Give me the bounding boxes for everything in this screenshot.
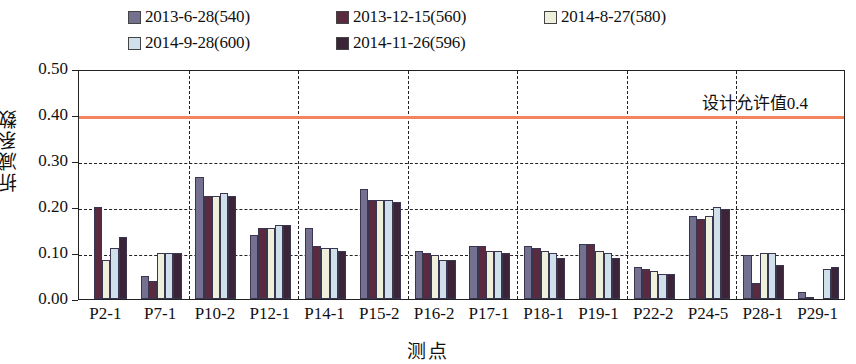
bar [195,177,203,299]
bar [798,292,806,299]
x-tick-label: P19-1 [571,304,626,324]
legend-label: 2014-11-26(596) [353,30,466,56]
x-tick-label: P7-1 [133,304,188,324]
y-tick-label: 0.50 [16,59,68,79]
legend-swatch-icon [128,11,141,24]
bar [557,258,565,299]
x-tick-label: P22-2 [626,304,681,324]
bar [384,200,392,299]
bar [642,269,650,299]
bar [204,196,212,300]
bar [393,202,401,299]
bar [713,207,721,299]
bar [743,255,751,299]
legend-swatch-icon [336,37,349,50]
legend-swatch-icon [336,11,349,24]
bar [305,228,313,299]
bar [612,258,620,299]
x-tick-label: P2-1 [78,304,133,324]
bar [587,244,595,299]
bar [212,196,220,300]
bar [532,248,540,299]
y-tick-label: 0.40 [16,105,68,125]
bar [313,246,321,299]
bar [220,193,228,299]
bar [102,260,110,299]
x-tick-label: P18-1 [516,304,571,324]
bar [768,253,776,299]
x-axis-label: 测点 [0,336,856,363]
bar [658,274,666,299]
bar [157,253,165,299]
legend-item-3: 2014-8-27(580) [544,4,752,30]
legend-item-2: 2013-12-15(560) [336,4,544,30]
bar-chart: 2013-6-28(540)2013-12-15(560)2014-8-27(5… [0,0,856,364]
legend-item-4: 2014-9-28(600) [128,30,336,56]
bar [267,228,275,299]
bar [110,248,118,299]
bar [423,253,431,299]
legend-label: 2014-9-28(600) [145,30,250,56]
bar [486,251,494,299]
legend-label: 2013-6-28(540) [145,4,250,30]
bar [368,200,376,299]
bar [806,297,814,299]
bar [831,267,839,299]
bar [494,251,502,299]
y-tick-mark [72,300,78,301]
bar [250,235,258,299]
bar [439,260,447,299]
legend-label: 2014-8-27(580) [561,4,666,30]
x-tick-label: P17-1 [462,304,517,324]
legend-swatch-icon [128,37,141,50]
threshold-label: 设计允许值0.4 [702,89,808,114]
legend-swatch-icon [544,11,557,24]
bar [667,274,675,299]
bar [330,248,338,299]
bar [165,253,173,299]
bar [415,251,423,299]
y-tick-label: 0.30 [16,151,68,171]
bar [321,248,329,299]
x-tick-label: P15-2 [352,304,407,324]
bar [502,253,510,299]
bar [595,251,603,299]
bar [760,253,768,299]
x-tick-label: P14-1 [297,304,352,324]
x-tick-label: P29-1 [790,304,845,324]
bar [689,216,697,299]
legend-item-5: 2014-11-26(596) [336,30,544,56]
y-tick-label: 0.00 [16,289,68,309]
bar [604,253,612,299]
bar [228,196,236,300]
bar [94,207,102,299]
bar [447,260,455,299]
y-tick-label: 0.10 [16,243,68,263]
bar [634,267,642,299]
bar [338,251,346,299]
bar [141,276,149,299]
x-tick-label: P24-5 [681,304,736,324]
bar [721,209,729,299]
bar [173,253,181,299]
bar [149,281,157,299]
legend-item-1: 2013-6-28(540) [128,4,336,30]
plot-area: 设计允许值0.4 [78,70,845,300]
bar [524,246,532,299]
x-tick-label: P12-1 [242,304,297,324]
bar [119,237,127,299]
bar [275,225,283,299]
bar [650,271,658,299]
x-tick-label: P28-1 [735,304,790,324]
bar [469,246,477,299]
y-tick-label: 0.20 [16,197,68,217]
threshold-line [79,116,844,119]
bar [360,189,368,299]
bar [579,244,587,299]
bar [541,251,549,299]
bar [431,255,439,299]
bar [478,246,486,299]
bar [823,269,831,299]
bar [697,219,705,300]
x-tick-label: P16-2 [407,304,462,324]
